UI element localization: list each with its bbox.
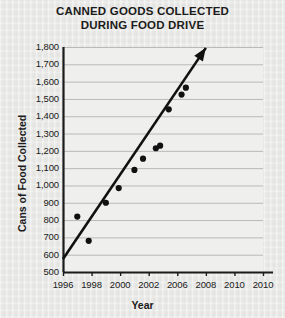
y-axis-tick-label: 500	[20, 266, 59, 277]
y-axis-tick-label: 1,700	[20, 58, 59, 69]
gridlines	[63, 47, 263, 272]
x-axis-tick-label: 2010	[243, 279, 283, 290]
x-axis-title: Year	[0, 299, 285, 311]
y-axis-tick-label: 700	[20, 231, 59, 242]
y-axis-tick-label: 1,500	[20, 93, 59, 104]
y-axis-title: Cans of Food Collected	[16, 115, 28, 232]
scatter-chart: CANNED GOODS COLLECTED DURING FOOD DRIVE…	[0, 0, 285, 318]
y-axis-tick-label: 1,800	[20, 41, 59, 52]
y-axis-tick-label: 600	[20, 249, 59, 260]
y-axis-tick-label: 1,600	[20, 76, 59, 87]
